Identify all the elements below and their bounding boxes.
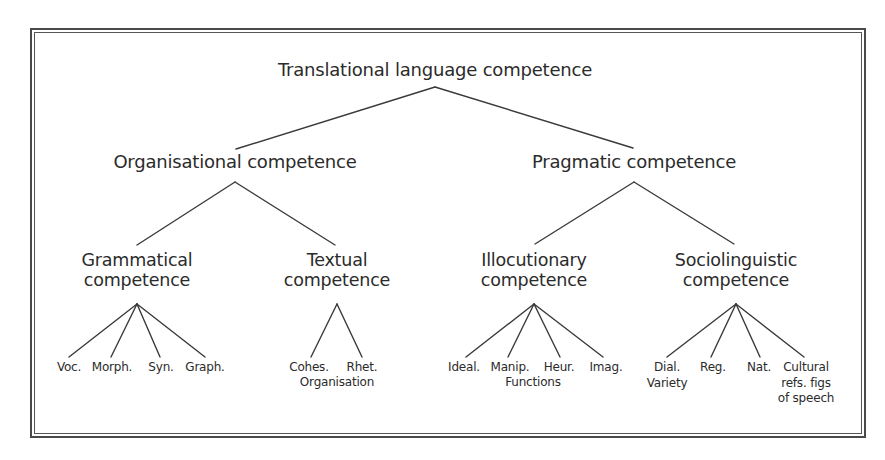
leaf-manip: Manip. — [491, 360, 530, 376]
leaf-dial-line1: Dial. — [647, 360, 688, 376]
connector-pragmatic-sociolinguistic — [634, 182, 734, 244]
connector-illocutionary-imag — [534, 304, 603, 357]
leaf-dial-variety: Dial. Variety — [647, 360, 688, 391]
leaf-rhet: Rhet. — [347, 360, 378, 376]
connector-organisational-textual — [235, 182, 335, 245]
connector-sociolinguistic-nat — [736, 304, 760, 357]
leaf-cultural-refs: Cultural refs. figs of speech — [778, 360, 834, 407]
leaf-imag: Imag. — [589, 360, 622, 376]
connector-pragmatic-illocutionary — [535, 182, 634, 244]
connector-grammatical-graph — [137, 304, 205, 357]
leaf-cultural-line2: refs. figs — [778, 376, 834, 392]
node-sociolinguistic-competence: Sociolinguistic competence — [675, 251, 797, 290]
connector-illocutionary-ideal — [466, 304, 534, 357]
leaf-nat: Nat. — [747, 360, 771, 376]
node-label-line2: competence — [81, 271, 192, 291]
leaf-syn: Syn. — [148, 360, 173, 376]
node-organisational-competence: Organisational competence — [113, 152, 356, 172]
connector-grammatical-syn — [137, 304, 160, 357]
node-translational-language-competence: Translational language competence — [278, 60, 592, 80]
connector-sociolinguistic-dial — [667, 304, 736, 357]
leaf-voc: Voc. — [57, 360, 81, 376]
leaf-dial-line2: Variety — [647, 376, 688, 392]
node-textual-competence: Textual competence — [284, 251, 390, 290]
node-label-line1: Illocutionary — [481, 251, 587, 271]
connector-sociolinguistic-cultural — [736, 304, 804, 357]
node-label-line1: Sociolinguistic — [675, 251, 797, 271]
leaf-heur: Heur. — [544, 360, 575, 376]
node-label-line2: competence — [284, 271, 390, 291]
node-label-line2: competence — [481, 271, 587, 291]
node-label-line2: competence — [675, 271, 797, 291]
connector-grammatical-voc — [69, 304, 137, 357]
connector-organisational-grammatical — [137, 182, 235, 245]
connector-sociolinguistic-reg — [711, 304, 736, 357]
node-grammatical-competence: Grammatical competence — [81, 251, 192, 290]
node-label-line1: Grammatical — [81, 251, 192, 271]
leaf-reg: Reg. — [700, 360, 726, 376]
connector-textual-cohes — [311, 304, 337, 357]
leaf-cultural-line1: Cultural — [778, 360, 834, 376]
connector-root-organisational — [236, 87, 435, 149]
connector-textual-rhet — [337, 304, 362, 357]
leaf-ideal: Ideal. — [448, 360, 480, 376]
connector-illocutionary-manip — [508, 304, 534, 357]
node-illocutionary-competence: Illocutionary competence — [481, 251, 587, 290]
node-label-line1: Textual — [284, 251, 390, 271]
connector-illocutionary-heur — [534, 304, 560, 357]
leaf-cultural-line3: of speech — [778, 391, 834, 407]
leaf-group-label-functions: Functions — [505, 375, 561, 391]
connector-root-pragmatic — [435, 87, 633, 148]
leaf-morph: Morph. — [92, 360, 132, 376]
leaf-group-label-organisation: Organisation — [300, 375, 374, 391]
connector-grammatical-morph — [111, 304, 137, 357]
node-pragmatic-competence: Pragmatic competence — [532, 152, 736, 172]
leaf-cohes: Cohes. — [289, 360, 329, 376]
leaf-graph: Graph. — [185, 360, 224, 376]
